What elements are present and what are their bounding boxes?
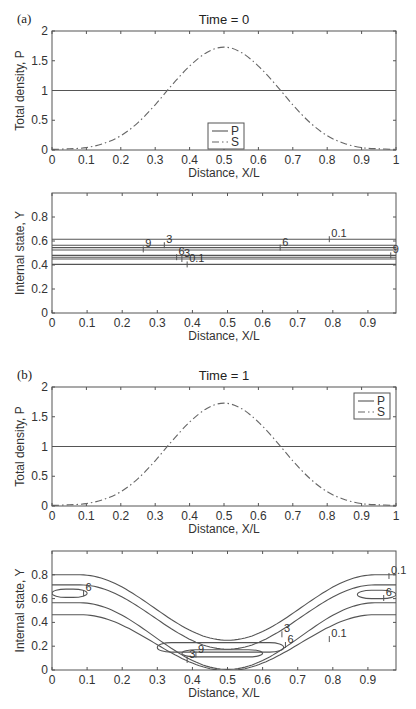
x-tick-label: 0.8	[319, 509, 336, 523]
x-tick-label: 0.3	[147, 509, 164, 523]
x-tick-label: 0.8	[324, 673, 341, 687]
x-tick-label: 0.3	[147, 153, 164, 167]
x-axis-label: Distance, X/L	[188, 166, 260, 180]
x-tick-label: 0.5	[216, 153, 233, 167]
contour-label: 0.1	[331, 227, 346, 239]
y-tick-label: 2	[41, 24, 48, 38]
contour-label: 0.1	[331, 627, 346, 639]
chart-a-bottom: 00.10.20.30.40.50.60.70.80.900.20.40.60.…	[13, 193, 399, 343]
x-tick-label: 0.7	[284, 509, 301, 523]
series-S	[52, 403, 396, 505]
x-tick-label: 0	[49, 153, 56, 167]
plot-area	[52, 403, 396, 505]
x-tick-label: 0	[49, 509, 56, 523]
y-tick-label: 0.2	[31, 639, 48, 653]
legend: PS	[208, 123, 244, 149]
x-axis-label: Distance, X/L	[188, 522, 260, 536]
x-tick-label: 0.6	[250, 153, 267, 167]
x-tick-label: 0.1	[78, 153, 95, 167]
contour-label: 3	[189, 648, 195, 660]
y-tick-label: 0	[41, 143, 48, 157]
contour-label: 3	[166, 233, 172, 245]
x-tick-label: 0.6	[254, 673, 271, 687]
y-tick-label: 0.8	[31, 568, 48, 582]
y-tick-label: 0.8	[31, 210, 48, 224]
x-tick-label: 0.7	[289, 316, 306, 330]
chart-a-top: (a)Time = 000.10.20.30.40.50.60.70.80.91…	[13, 11, 400, 180]
y-axis-label: Total density, P	[13, 406, 27, 486]
x-tick-label: 0.4	[184, 673, 201, 687]
contour-label: 6	[282, 236, 288, 248]
x-tick-label: 0	[49, 316, 56, 330]
x-tick-label: 0.5	[219, 673, 236, 687]
contour-label: 6	[386, 586, 392, 598]
x-tick-label: 0.7	[289, 673, 306, 687]
x-tick-label: 0.8	[324, 316, 341, 330]
x-tick-label: 0.2	[112, 153, 129, 167]
x-tick-label: 0.9	[360, 316, 377, 330]
contour-line-3	[52, 585, 396, 649]
y-tick-label: 0	[41, 499, 48, 513]
x-tick-label: 0.5	[216, 509, 233, 523]
x-tick-label: 0.1	[79, 673, 96, 687]
x-axis-label: Distance, X/L	[188, 329, 260, 343]
y-tick-label: 0.6	[31, 234, 48, 248]
contour-label: 9	[145, 237, 151, 249]
x-tick-label: 0.2	[114, 316, 131, 330]
y-tick-label: 1.5	[31, 410, 48, 424]
x-tick-label: 0.5	[219, 316, 236, 330]
y-tick-label: 0.6	[31, 592, 48, 606]
y-axis-label: Internal state, Y	[13, 211, 27, 295]
x-tick-label: 0.3	[149, 316, 166, 330]
x-tick-label: 0.9	[360, 673, 377, 687]
x-tick-label: 0.8	[319, 153, 336, 167]
x-tick-label: 1	[393, 153, 400, 167]
contour-label: 6	[86, 581, 92, 593]
x-tick-label: 0.2	[114, 673, 131, 687]
x-tick-label: 0.3	[149, 673, 166, 687]
panel-label: (b)	[17, 367, 32, 382]
x-tick-label: 0.4	[184, 316, 201, 330]
chart-b-bottom: 00.10.20.30.40.50.60.70.80.900.20.40.60.…	[13, 551, 406, 700]
x-tick-label: 0.2	[112, 509, 129, 523]
contour-label: 0.1	[189, 252, 204, 264]
x-tick-label: 0.4	[181, 509, 198, 523]
contour-label: 9	[198, 643, 204, 655]
y-tick-label: 0.5	[31, 113, 48, 127]
legend-label-S: S	[377, 405, 385, 419]
legend-label-S: S	[231, 135, 239, 149]
contour-closed-6	[52, 589, 87, 597]
x-tick-label: 0.7	[284, 153, 301, 167]
figure: (a)Time = 000.10.20.30.40.50.60.70.80.91…	[0, 0, 416, 709]
x-tick-label: 0.4	[181, 153, 198, 167]
x-tick-label: 0.9	[353, 153, 370, 167]
y-tick-label: 0.2	[31, 282, 48, 296]
y-axis-label: Internal state, Y	[13, 569, 27, 653]
x-axis-label: Distance, X/L	[188, 686, 260, 700]
y-tick-label: 1	[41, 84, 48, 98]
x-tick-label: 0.1	[78, 509, 95, 523]
axes-frame	[52, 193, 396, 313]
contour-label: 0.1	[391, 564, 406, 576]
plot-area	[52, 575, 396, 671]
x-tick-label: 0	[49, 673, 56, 687]
y-tick-label: 0	[41, 663, 48, 677]
chart-title: Time = 0	[199, 12, 249, 27]
x-tick-label: 0.6	[250, 509, 267, 523]
x-tick-label: 0.6	[254, 316, 271, 330]
y-tick-label: 2	[41, 380, 48, 394]
plot-area	[52, 239, 396, 264]
y-tick-label: 0.4	[31, 615, 48, 629]
y-tick-label: 0.5	[31, 469, 48, 483]
y-tick-label: 1	[41, 440, 48, 454]
y-tick-label: 0	[41, 306, 48, 320]
legend: PS	[354, 393, 390, 419]
contour-label: 6	[287, 633, 293, 645]
y-tick-label: 1.5	[31, 54, 48, 68]
chart-title: Time = 1	[199, 368, 249, 383]
y-axis-label: Total density, P	[13, 50, 27, 130]
x-tick-label: 0.9	[353, 509, 370, 523]
panel-label: (a)	[17, 11, 31, 26]
y-tick-label: 0.4	[31, 258, 48, 272]
x-tick-label: 1	[393, 509, 400, 523]
